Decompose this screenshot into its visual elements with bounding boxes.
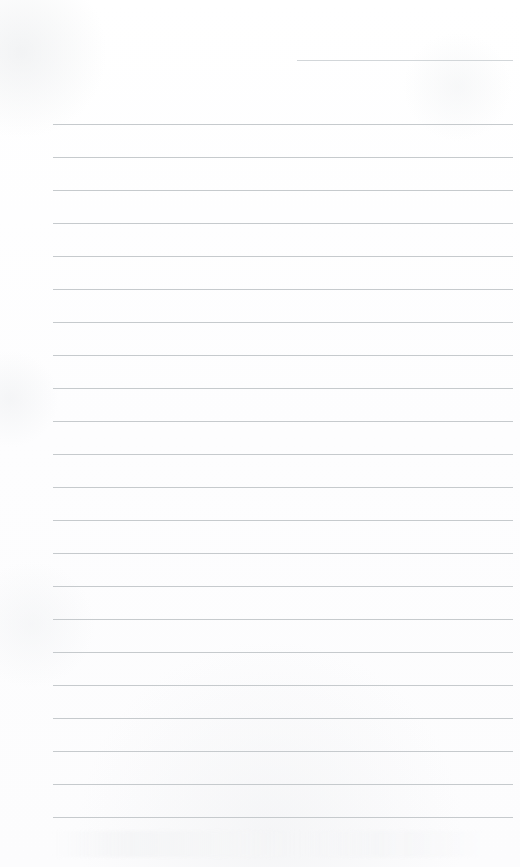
ruled-line <box>53 520 513 521</box>
ruled-line <box>53 784 513 785</box>
ruled-line <box>53 685 513 686</box>
ruled-line <box>53 421 513 422</box>
ruled-line <box>53 652 513 653</box>
ruled-line <box>53 256 513 257</box>
ruled-line <box>53 388 513 389</box>
ruled-line <box>53 586 513 587</box>
ruled-line <box>53 355 513 356</box>
ruled-line <box>53 553 513 554</box>
ruled-line <box>53 289 513 290</box>
ruled-line <box>53 157 513 158</box>
ruled-line <box>53 619 513 620</box>
ruled-line <box>53 487 513 488</box>
ruled-line <box>53 454 513 455</box>
ruled-line <box>53 322 513 323</box>
ruled-line <box>297 60 513 61</box>
ruled-line <box>53 223 513 224</box>
ruled-line <box>53 190 513 191</box>
ruled-line <box>53 817 513 818</box>
ruled-line <box>53 718 513 719</box>
notebook-page: Lined Notebook Page <box>0 0 520 867</box>
ruled-line <box>53 751 513 752</box>
ruled-lines-layer <box>0 0 520 867</box>
ruled-line <box>53 124 513 125</box>
